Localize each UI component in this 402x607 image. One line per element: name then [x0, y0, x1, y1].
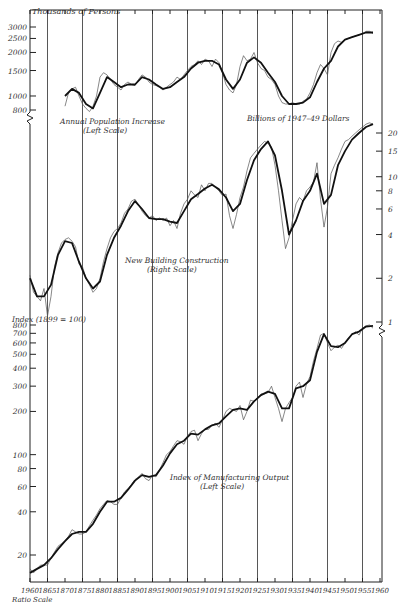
y-tick-label: 15 — [388, 147, 398, 156]
x-tick-label: 1920 — [231, 587, 249, 595]
x-tick-label: 1875 — [74, 587, 92, 595]
x-tick-label: 1945 — [319, 587, 337, 595]
building-scale-note: (Right Scale) — [147, 265, 197, 274]
y-tick-label: 6 — [388, 205, 393, 214]
y-tick-label: 10 — [388, 173, 398, 182]
x-tick-label: 1870 — [56, 587, 74, 595]
population-unit-label: Thousands of Persons — [32, 7, 120, 16]
y-tick-label: 2000 — [7, 48, 27, 57]
x-tick-label: 1895 — [144, 587, 162, 595]
x-tick-label: 1950 — [336, 587, 354, 595]
y-tick-label: 2 — [387, 274, 393, 283]
x-tick-label: 1960 — [371, 587, 389, 595]
long-swings-chart: 3000250020001500100080020151086421800700… — [0, 0, 402, 607]
x-tick-label: 1880 — [91, 587, 109, 595]
y-tick-label: 8 — [388, 187, 393, 196]
x-tick-label: 1940 — [301, 587, 319, 595]
vertical-gridlines — [48, 10, 363, 582]
y-tick-label: 20 — [16, 551, 27, 560]
x-tick-label: 1960 — [21, 587, 39, 595]
annual-population-increase-smoothed-line — [65, 33, 373, 109]
population-series-label: Annual Population Increase — [59, 117, 165, 126]
y-tick-label: 40 — [16, 508, 27, 517]
x-tick-label: 1900 — [161, 587, 179, 595]
index-of-manufacturing-output-smoothed-line — [30, 326, 373, 573]
y-tick-label: 4 — [387, 231, 393, 240]
manufacturing-unit-label: Index (1899 = 100) — [11, 315, 86, 324]
data-series — [30, 31, 373, 573]
y-tick-label: 800 — [13, 106, 28, 115]
y-tick-label: 600 — [13, 339, 28, 348]
building-unit-label: Billions of 1947–49 Dollars — [246, 114, 350, 123]
x-tick-label: 1905 — [179, 587, 197, 595]
x-tick-label: 1930 — [266, 587, 284, 595]
manufacturing-scale-note: (Left Scale) — [200, 482, 244, 491]
y-tick-label: 200 — [12, 407, 28, 416]
x-tick-label: 1915 — [214, 587, 232, 595]
x-tick-label: 1925 — [249, 587, 267, 595]
y-tick-label: 700 — [13, 329, 28, 338]
y-tick-label: 100 — [13, 451, 28, 460]
annual-population-increase-annual-line — [65, 31, 373, 111]
y-tick-label: 2500 — [7, 34, 27, 43]
y-tick-label: 20 — [387, 129, 398, 138]
x-tick-label: 1890 — [126, 587, 144, 595]
y-tick-label: 80 — [17, 465, 27, 474]
new-building-construction-annual-line — [30, 123, 373, 316]
y-tick-label: 1500 — [8, 67, 27, 76]
y-tick-label: 500 — [13, 350, 28, 359]
manufacturing-series-label: Index of Manufacturing Output — [169, 473, 290, 482]
y-tick-label: 60 — [17, 483, 27, 492]
building-series-label: New Building Construction — [124, 256, 229, 265]
x-axis: 1960186518701875188018851890189519001905… — [21, 578, 389, 595]
x-tick-label: 1955 — [354, 587, 372, 595]
y-tick-label: 3000 — [8, 23, 27, 32]
population-scale-note: (Left Scale) — [83, 126, 127, 135]
y-tick-label: 1000 — [8, 92, 27, 101]
x-tick-label: 1885 — [109, 587, 127, 595]
x-tick-label: 1910 — [196, 587, 214, 595]
x-tick-label: 1865 — [39, 587, 57, 595]
ratio-scale-label: Ratio Scale — [11, 596, 52, 604]
y-tick-label: 1 — [388, 318, 393, 327]
y-tick-label: 400 — [12, 364, 28, 373]
index-of-manufacturing-output-annual-line — [30, 325, 373, 573]
x-tick-label: 1935 — [284, 587, 302, 595]
y-tick-label: 300 — [13, 382, 28, 391]
